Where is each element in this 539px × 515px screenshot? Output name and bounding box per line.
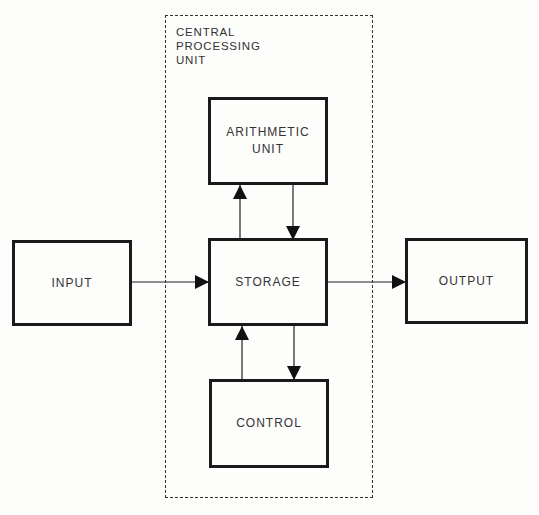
- output-block: OUTPUT: [405, 238, 528, 324]
- cpu-label-line: UNIT: [176, 53, 261, 67]
- arithmetic-label-line: ARITHMETIC: [226, 124, 309, 141]
- cpu-label-line: PROCESSING: [176, 39, 261, 53]
- control-block: CONTROL: [209, 379, 329, 468]
- control-label: CONTROL: [236, 415, 302, 432]
- cpu-label-line: CENTRAL: [176, 25, 261, 39]
- storage-block: STORAGE: [208, 238, 328, 326]
- input-label: INPUT: [52, 275, 93, 292]
- storage-label: STORAGE: [235, 274, 300, 291]
- arithmetic-label-line: UNIT: [252, 141, 284, 158]
- input-block: INPUT: [12, 240, 132, 326]
- cpu-label: CENTRAL PROCESSING UNIT: [176, 25, 261, 67]
- output-label: OUTPUT: [439, 273, 494, 290]
- arithmetic-unit-block: ARITHMETIC UNIT: [208, 97, 328, 185]
